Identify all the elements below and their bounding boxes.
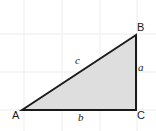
geometry-figure: A B C a b c	[0, 0, 156, 131]
vertex-label-c: C	[137, 110, 145, 121]
vertex-label-a: A	[12, 110, 19, 121]
side-label-b: b	[78, 112, 84, 123]
side-label-a: a	[138, 62, 144, 73]
vertex-label-b: B	[137, 22, 144, 33]
side-label-c: c	[75, 55, 80, 66]
